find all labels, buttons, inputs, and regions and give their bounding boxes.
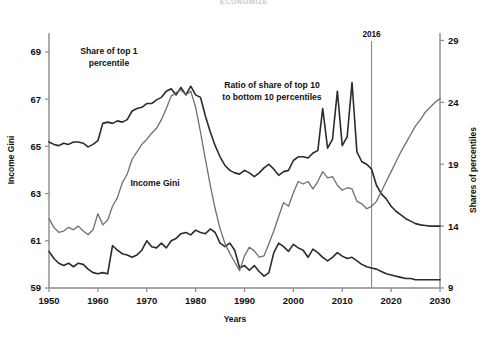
y-left-tick-label: 61 bbox=[30, 235, 41, 246]
series-path-2 bbox=[49, 90, 440, 271]
x-tick-label: 1990 bbox=[234, 295, 255, 306]
annotation-top1-line1: Share of top 1 bbox=[80, 46, 138, 56]
y-left-tick-label: 67 bbox=[30, 94, 41, 105]
x-tick-label: 2010 bbox=[332, 295, 353, 306]
annotation-top1-line2: percentile bbox=[89, 58, 130, 68]
x-tick-label: 1970 bbox=[136, 295, 157, 306]
x-tick-label: 2000 bbox=[283, 295, 304, 306]
y-left-tick-label: 69 bbox=[30, 46, 41, 57]
chart-figure: ECONOMIZE 596163656769 914192429 1950196… bbox=[0, 0, 488, 340]
y-right-tick-label: 24 bbox=[448, 97, 459, 108]
y-left-ticks: 596163656769 bbox=[30, 46, 49, 293]
y-right-tick-label: 9 bbox=[448, 282, 453, 293]
series-path-1 bbox=[49, 83, 440, 227]
annotation-income-gini: Income Gini bbox=[130, 178, 179, 188]
x-tick-label: 2030 bbox=[429, 295, 450, 306]
y-left-tick-label: 65 bbox=[30, 141, 41, 152]
annotation-ratio-line1: Ratio of share of top 10 bbox=[224, 80, 320, 90]
annotation-ratio-line2: to bottom 10 percentiles bbox=[222, 92, 322, 102]
x-tick-label: 1950 bbox=[38, 295, 59, 306]
marker-2016-label: 2016 bbox=[362, 30, 381, 39]
y-left-tick-label: 63 bbox=[30, 188, 41, 199]
x-axis-title: Years bbox=[224, 314, 247, 324]
x-tick-label: 1960 bbox=[87, 295, 108, 306]
data-series-group bbox=[49, 83, 440, 280]
y-right-tick-label: 29 bbox=[448, 35, 459, 46]
y-left-axis-title: Income Gini bbox=[6, 136, 16, 185]
axis-group bbox=[49, 33, 440, 288]
chart-canvas: 596163656769 914192429 19501960197019801… bbox=[0, 0, 488, 340]
x-ticks: 195019601970198019902000201020202030 bbox=[38, 288, 450, 306]
y-right-tick-label: 19 bbox=[448, 159, 459, 170]
y-right-tick-label: 14 bbox=[448, 221, 459, 232]
y-right-axis-title: Shares of percentiles bbox=[468, 127, 478, 213]
x-tick-label: 2020 bbox=[381, 295, 402, 306]
y-left-tick-label: 59 bbox=[30, 282, 41, 293]
x-tick-label: 1980 bbox=[185, 295, 206, 306]
forecast-marker-2016: 2016 bbox=[362, 30, 381, 288]
y-right-ticks: 914192429 bbox=[440, 35, 459, 294]
series-path-0 bbox=[49, 229, 440, 280]
